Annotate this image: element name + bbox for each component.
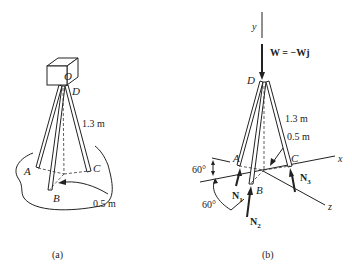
tripod-legs-b <box>237 81 292 184</box>
radius-arrowhead <box>58 179 66 185</box>
label-a-leg-length: 1.3 m <box>82 118 105 129</box>
label-a-C: C <box>93 162 101 174</box>
label-b-base-radius: 0.5 m <box>287 131 310 142</box>
radius-arrow <box>66 182 108 194</box>
camera-box <box>47 58 78 85</box>
radius-arrow-b <box>273 148 283 162</box>
label-b-leg-length: 1.3 m <box>285 113 308 124</box>
label-a-d: D <box>71 85 80 97</box>
label-n1: N1 <box>232 190 243 204</box>
label-camera-o: O <box>64 70 72 82</box>
weight-arrowhead <box>259 72 265 80</box>
label-weight: W = −Wj <box>270 47 310 58</box>
label-a-A: A <box>23 165 31 177</box>
n2-arrow <box>247 193 250 217</box>
label-b-A: A <box>232 152 240 164</box>
label-z-axis: z <box>327 201 332 212</box>
caption-a: (a) <box>52 249 63 261</box>
label-b-D: D <box>246 74 255 86</box>
figure-b: y W = −Wj D x z 1.3 m 0.5 m A B C <box>192 12 343 261</box>
label-b-B: B <box>256 184 263 196</box>
label-a-B: B <box>53 192 60 204</box>
label-y-axis: y <box>251 21 257 32</box>
n3-arrowhead <box>289 168 294 177</box>
n3-arrow <box>292 175 295 192</box>
label-a-base-radius: 0.5 m <box>93 198 116 209</box>
label-b-C: C <box>291 152 299 164</box>
tripod-diagram: O D 1.3 m A B C 0.5 m (a) y W = −Wj D x … <box>0 0 352 277</box>
label-n3: N3 <box>300 172 311 186</box>
label-angle-60-lower: 60° <box>202 199 216 210</box>
caption-b: (b) <box>262 249 274 261</box>
label-angle-60-upper: 60° <box>192 164 206 175</box>
n2-arrowhead <box>247 186 253 195</box>
label-x-axis: x <box>337 153 343 164</box>
figure-a: O D 1.3 m A B C 0.5 m (a) <box>16 58 116 261</box>
n1-arrowhead <box>237 168 242 176</box>
label-n2: N2 <box>250 216 261 230</box>
